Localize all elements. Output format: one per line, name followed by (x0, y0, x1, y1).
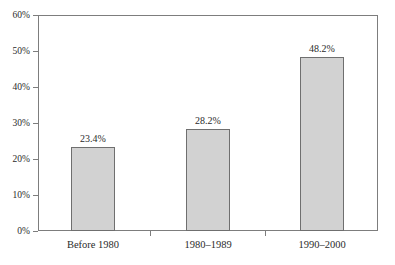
y-axis-tick-label: 10% (13, 189, 33, 201)
bar-before-1980[interactable] (71, 147, 115, 231)
y-axis-tick: 50% (13, 45, 38, 57)
y-axis-tick: 0% (17, 225, 38, 237)
x-axis-category-label-1980-1989: 1980–1989 (160, 239, 256, 250)
y-axis-tick-label: 60% (13, 9, 33, 21)
bar-group: 48.2% (300, 15, 344, 231)
bar-value-label: 48.2% (300, 43, 344, 54)
bar-1990-2000[interactable] (300, 57, 344, 231)
bar-value-label: 23.4% (71, 133, 115, 144)
y-axis-tick-label: 30% (13, 117, 33, 129)
y-axis-tick-label: 40% (13, 81, 33, 93)
y-axis-tick: 30% (13, 117, 38, 129)
bar-group: 28.2% (186, 15, 230, 231)
x-axis: Before 1980 1980–1989 1990–2000 (38, 231, 378, 265)
y-axis-tick: 40% (13, 81, 38, 93)
y-axis: 60% 50% 40% 30% 20% 10% 0% (0, 0, 38, 265)
bar-value-label: 28.2% (186, 115, 230, 126)
y-axis-tick: 60% (13, 9, 38, 21)
y-axis-tick: 10% (13, 189, 38, 201)
y-axis-tick-label: 20% (13, 153, 33, 165)
y-axis-tick-label: 0% (17, 225, 33, 237)
bars-layer: 23.4% 28.2% 48.2% (38, 15, 378, 231)
x-axis-tick-mark (150, 231, 151, 236)
bar-chart: 60% 50% 40% 30% 20% 10% 0% (0, 0, 395, 265)
x-axis-category-label-1990-2000: 1990–2000 (274, 239, 370, 250)
bar-group: 23.4% (71, 15, 115, 231)
x-axis-category-label-before-1980: Before 1980 (45, 239, 141, 250)
bar-1980-1989[interactable] (186, 129, 230, 231)
x-axis-tick-mark (265, 231, 266, 236)
y-axis-tick-label: 50% (13, 45, 33, 57)
y-axis-tick: 20% (13, 153, 38, 165)
